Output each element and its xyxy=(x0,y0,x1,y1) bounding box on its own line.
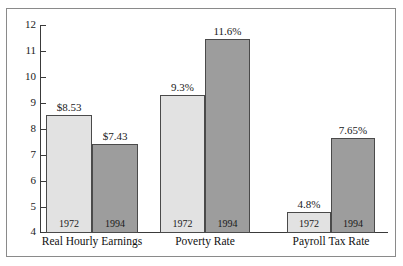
bar-year-poverty-rate-1994: 1994 xyxy=(205,218,250,229)
y-tick-label-11: 11 xyxy=(6,45,36,56)
y-tick-label-7: 7 xyxy=(6,149,36,160)
y-tick-label-10-wrap: 10 xyxy=(0,71,36,82)
bar-year-payroll-tax-rate-1972: 1972 xyxy=(287,218,331,229)
bar-value-real-hourly-earnings-1972: $8.53 xyxy=(40,101,98,113)
y-tick-label-8-wrap: 8 xyxy=(0,123,36,134)
bar-value-real-hourly-earnings-1994: $7.43 xyxy=(86,130,144,142)
bar-year-real-hourly-earnings-1994: 1994 xyxy=(92,218,138,229)
y-tick-label-12-wrap: 12 xyxy=(0,19,36,30)
bar-year-poverty-rate-1972: 1972 xyxy=(160,218,205,229)
y-tick-10 xyxy=(41,77,46,78)
bar-value-payroll-tax-rate-1994: 7.65% xyxy=(325,124,381,136)
y-tick-label-11-wrap: 11 xyxy=(0,45,36,56)
y-tick-11 xyxy=(41,51,46,52)
y-tick-label-5-wrap: 5 xyxy=(0,201,36,212)
y-tick-label-10: 10 xyxy=(6,71,36,82)
bar-value-payroll-tax-rate-1972: 4.8% xyxy=(281,198,337,210)
y-tick-label-7-wrap: 7 xyxy=(0,149,36,160)
y-tick-label-6: 6 xyxy=(6,175,36,186)
group-label-poverty-rate: Poverty Rate xyxy=(155,235,255,248)
bar-year-real-hourly-earnings-1972: 1972 xyxy=(46,218,92,229)
group-label-real-hourly-earnings: Real Hourly Earnings xyxy=(32,235,152,248)
y-tick-label-4-wrap: 4 xyxy=(0,226,36,237)
y-tick-label-8: 8 xyxy=(6,123,36,134)
bar-value-poverty-rate-1972: 9.3% xyxy=(154,81,211,93)
y-tick-label-9: 9 xyxy=(6,97,36,108)
bar-poverty-rate-1972[interactable] xyxy=(160,95,205,233)
y-tick-label-9-wrap: 9 xyxy=(0,97,36,108)
bar-poverty-rate-1994[interactable] xyxy=(205,39,250,233)
chart-figure: 12 11 10 9 8 7 6 5 4 $8.53 1972 $7.43 19… xyxy=(0,0,403,266)
bar-year-payroll-tax-rate-1994: 1994 xyxy=(331,218,375,229)
group-label-payroll-tax-rate: Payroll Tax Rate xyxy=(276,235,386,248)
y-tick-label-12: 12 xyxy=(6,19,36,30)
bar-value-poverty-rate-1994: 11.6% xyxy=(199,25,256,37)
y-tick-12 xyxy=(41,25,46,26)
y-tick-label-5: 5 xyxy=(6,201,36,212)
y-tick-label-6-wrap: 6 xyxy=(0,175,36,186)
